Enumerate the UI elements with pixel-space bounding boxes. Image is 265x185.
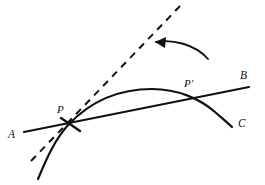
dashed-tangent-line-at-p [31,5,181,161]
rotation-arrow-head-icon [155,37,166,48]
label-line-start-a: A [7,128,16,140]
label-point-p-prime: P' [183,77,194,89]
diagram-canvas: P P' A B C [0,0,265,185]
label-curve-end-c: C [238,117,246,129]
geometry-diagram: P P' A B C [0,0,265,185]
label-line-end-b: B [240,69,247,81]
label-point-p: P [56,103,64,115]
curve-through-p-and-p-prime [38,89,232,179]
